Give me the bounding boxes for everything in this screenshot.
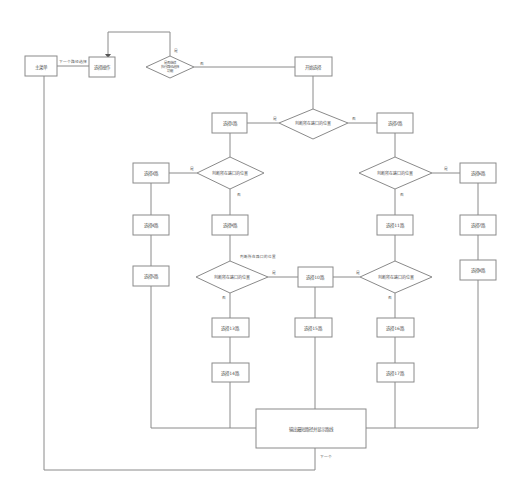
edge-label-no: 否 [200, 61, 204, 66]
node-main-right[interactable]: 选择2路 [377, 113, 413, 133]
edge-label: 是 [272, 270, 276, 275]
edge-label: 下一个路径选择 [59, 59, 87, 64]
edge-label: 否 [237, 192, 241, 197]
node-label: 选择4路 [144, 222, 160, 229]
node-left-low-1[interactable]: 选择13路 [212, 318, 249, 337]
node-label: 选择5路 [144, 273, 160, 280]
edge-label: 否 [352, 116, 356, 121]
node-far-left-3[interactable]: 选择5路 [133, 266, 169, 286]
edge-label: 是 [444, 166, 448, 171]
node-label: 选择11路 [386, 222, 405, 229]
edge-loop-top [108, 32, 170, 56]
edge-label: 是 [190, 166, 194, 171]
node-far-right-1[interactable]: 选择6路 [460, 163, 496, 183]
edge-label: 否 [388, 295, 392, 300]
decision-left[interactable]: 判断所在路口的位置 [197, 157, 264, 189]
decision-main[interactable]: 判断所在路口的位置 [279, 109, 348, 139]
node-label: 选择2路 [388, 120, 404, 127]
node-main-left[interactable]: 选择1路 [212, 113, 247, 133]
node-start[interactable]: 主菜单 [25, 56, 57, 76]
edge-label: 否 [400, 192, 404, 197]
node-label: 选择3路 [144, 170, 160, 177]
node-label: 选择10路 [306, 274, 325, 281]
edge-label: 否 [222, 295, 226, 300]
node-far-right-3[interactable]: 选择8路 [460, 260, 496, 280]
node-left-mid[interactable]: 选择9路 [212, 215, 248, 235]
node-select-op[interactable]: 选择操作 [89, 57, 115, 77]
node-far-left-1[interactable]: 选择3路 [133, 163, 169, 183]
node-right-mid-1[interactable]: 选择11路 [377, 215, 413, 235]
node-label: 判断所在路口的位置 [212, 170, 248, 176]
node-center-low[interactable]: 选择15路 [295, 318, 332, 337]
flowchart-canvas: 主菜单 下一个路径选择 选择操作 是否继续 执行路径选择 功能 是 否 开始选择… [0, 0, 523, 491]
node-label: 判断所在路口的位置 [214, 274, 250, 280]
node-label: 功能 [167, 68, 174, 73]
node-right-low-2[interactable]: 选择17路 [377, 363, 414, 382]
node-label: 选择1路 [223, 120, 239, 127]
node-label: 选择7路 [471, 222, 487, 229]
node-far-right-2[interactable]: 选择7路 [460, 215, 496, 235]
decision-right[interactable]: 判断所在路口的位置 [359, 157, 432, 189]
edge-label: 是 [273, 116, 277, 121]
node-far-left-2[interactable]: 选择4路 [133, 215, 169, 235]
node-left-low-2[interactable]: 选择14路 [212, 363, 249, 382]
node-label: 主菜单 [35, 64, 48, 71]
node-label: 选择13路 [221, 325, 240, 332]
node-label: 选择9路 [223, 222, 239, 229]
connectors [44, 32, 478, 470]
node-label: 选择操作 [94, 64, 111, 71]
node-label: 输出最短路径并显示路线 [289, 426, 334, 433]
node-begin[interactable]: 开始选择 [295, 57, 332, 76]
node-right-low-1[interactable]: 选择16路 [377, 318, 414, 337]
decision-caption: 判断所在路口的位置 [240, 254, 276, 259]
node-label: 选择8路 [471, 267, 487, 274]
node-label: 开始选择 [305, 64, 322, 71]
edge-label-yes: 是 [174, 48, 178, 53]
edge-label: 是 [356, 270, 360, 275]
decision-right-low[interactable]: 判断所在路口的位置 [360, 261, 432, 293]
decision-top[interactable]: 是否继续 执行路径选择 功能 [146, 56, 194, 78]
decision-left-low[interactable]: 判断所在路口的位置 [196, 261, 268, 293]
node-label: 判断所在路口的位置 [295, 120, 331, 126]
node-label: 判断所在路口的位置 [377, 170, 413, 176]
node-label: 判断所在路口的位置 [378, 274, 414, 280]
node-label: 选择17路 [386, 370, 405, 377]
node-label: 选择15路 [304, 325, 323, 332]
node-center[interactable]: 选择10路 [298, 267, 333, 287]
node-label: 选择14路 [221, 370, 240, 377]
node-end[interactable]: 输出最短路径并显示路线 [256, 409, 366, 448]
node-label: 选择6路 [471, 170, 487, 177]
edge-label-next: 下一个 [320, 454, 332, 459]
node-label: 选择16路 [386, 325, 405, 332]
